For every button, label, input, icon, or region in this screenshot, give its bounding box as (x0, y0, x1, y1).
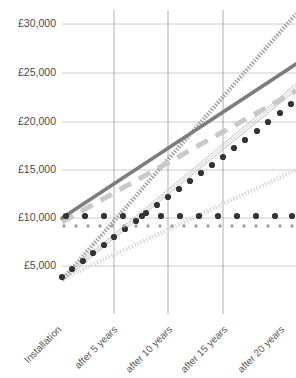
marker-dot (231, 145, 237, 151)
dashed-light-grey-path (62, 91, 296, 222)
marker-dot-small (182, 224, 185, 227)
xtick-label-after-15-years: after 15 years (178, 324, 229, 375)
cost-comparison-line-chart: £30,000 £25,000 £20,000 £15,000 £10,000 … (0, 0, 296, 378)
series-dashed-light-grey-line (62, 91, 296, 222)
series-large-dark-dotted-rising (59, 101, 294, 280)
marker-dot (165, 194, 171, 200)
xtick-label-after-20-years: after 20 years (235, 324, 286, 375)
marker-dot (177, 213, 183, 219)
marker-dot-small (122, 224, 125, 227)
marker-dot (80, 258, 86, 264)
marker-dot-small (278, 224, 281, 227)
marker-dot (253, 213, 259, 219)
marker-dot (277, 110, 283, 116)
marker-dot (196, 213, 202, 219)
marker-dot (154, 202, 160, 208)
solid-dark-grey-path (62, 64, 296, 218)
marker-dot (101, 213, 107, 219)
ytick-label-20000: £20,000 (18, 115, 56, 127)
marker-dot-small (194, 224, 197, 227)
marker-dot-small (254, 224, 257, 227)
marker-dot (59, 274, 65, 280)
marker-dot (289, 213, 295, 219)
horizontal-gridlines (62, 24, 296, 266)
ytick-label-15000: £15,000 (18, 163, 56, 175)
marker-dot-small (74, 224, 77, 227)
marker-dot (187, 178, 193, 184)
ytick-label-10000: £10,000 (18, 211, 56, 223)
chart-canvas: £30,000 £25,000 £20,000 £15,000 £10,000 … (0, 0, 296, 378)
marker-dot-small (98, 224, 101, 227)
marker-dot (101, 242, 107, 248)
marker-dot-small (134, 224, 137, 227)
marker-dot (133, 218, 139, 224)
ytick-label-25000: £25,000 (18, 66, 56, 78)
marker-dot (176, 186, 182, 192)
marker-dot (158, 213, 164, 219)
marker-dot-small (230, 224, 233, 227)
ytick-label-30000: £30,000 (18, 17, 56, 29)
marker-dot-small (146, 224, 149, 227)
marker-dot (82, 213, 88, 219)
xtick-label-installation: Installation (22, 324, 64, 366)
thin-grey-line-path-b (62, 87, 296, 279)
marker-dot (198, 170, 204, 176)
marker-dot (69, 266, 75, 272)
marker-dot (90, 250, 96, 256)
marker-dot-small (158, 224, 161, 227)
marker-dot (254, 128, 260, 134)
marker-dot (234, 213, 240, 219)
marker-dot (272, 213, 278, 219)
marker-dot-small (170, 224, 173, 227)
ytick-label-5000: £5,000 (24, 259, 56, 271)
xtick-label-after-5-years: after 5 years (72, 324, 119, 371)
marker-dot-small (206, 224, 209, 227)
series-thin-grey-rising-line (62, 84, 296, 281)
marker-dot-small (242, 224, 245, 227)
series-hatched-steep-rising-line (62, 14, 296, 280)
marker-dot (265, 119, 271, 125)
marker-dot-small (218, 224, 221, 227)
marker-dot (242, 137, 248, 143)
marker-dot (288, 101, 294, 107)
marker-dot-small (62, 224, 65, 227)
marker-dot-small (110, 224, 113, 227)
marker-dot-small (86, 224, 89, 227)
marker-dot-small (266, 224, 269, 227)
marker-dot (220, 154, 226, 160)
marker-dot-small (290, 224, 293, 227)
marker-dot (111, 234, 117, 240)
thin-grey-line-path-c (62, 90, 296, 281)
x-axis-tick-labels: Installation after 5 years after 10 year… (22, 324, 287, 375)
marker-dot (139, 213, 145, 219)
marker-dot (120, 213, 126, 219)
marker-dot (63, 213, 69, 219)
hatched-steep-line-path (62, 14, 296, 280)
series-solid-dark-grey-line (62, 64, 296, 218)
xtick-label-after-10-years: after 10 years (123, 324, 174, 375)
y-axis-tick-labels: £30,000 £25,000 £20,000 £15,000 £10,000 … (18, 17, 56, 271)
marker-dot (209, 162, 215, 168)
marker-dot (215, 213, 221, 219)
